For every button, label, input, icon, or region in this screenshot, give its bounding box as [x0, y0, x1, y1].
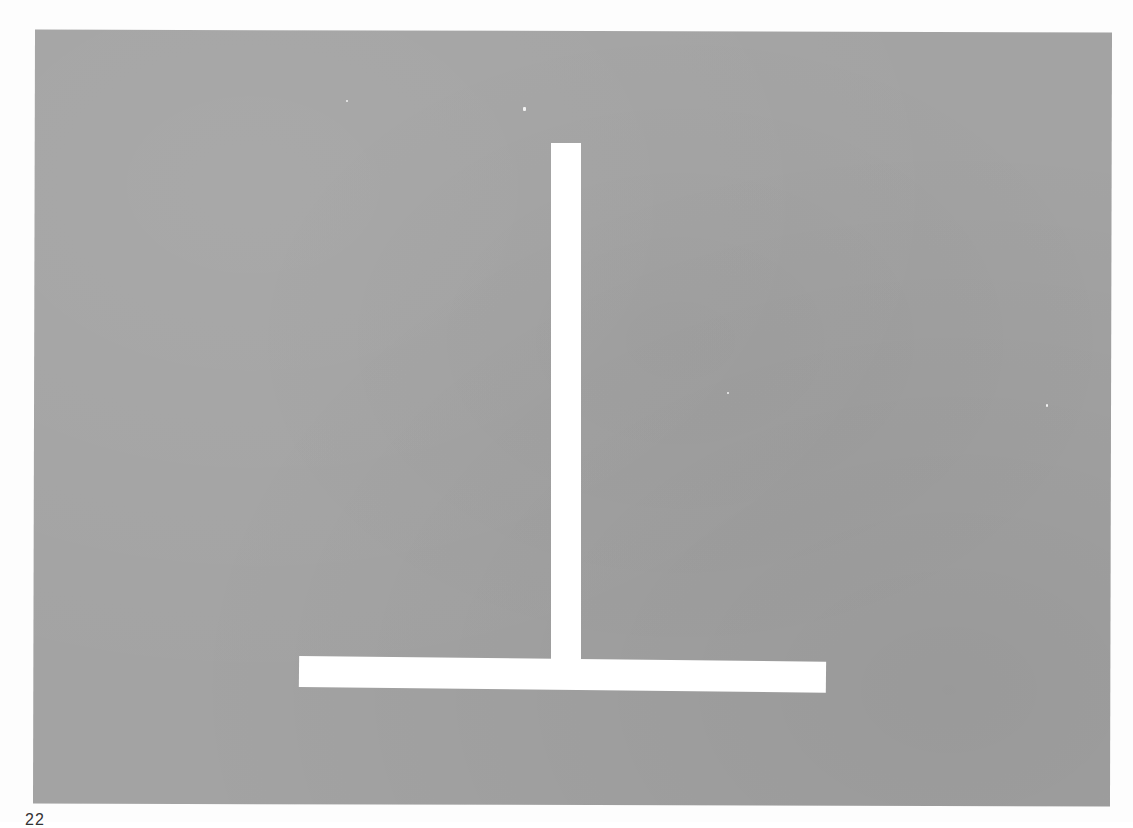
dust-speck	[346, 100, 348, 102]
page-number: 22	[25, 812, 45, 828]
horizontal-bar	[299, 656, 826, 693]
dust-speck	[523, 107, 526, 111]
vertical-bar	[551, 143, 581, 659]
dust-speck	[727, 392, 729, 394]
dust-speck	[1046, 404, 1048, 407]
